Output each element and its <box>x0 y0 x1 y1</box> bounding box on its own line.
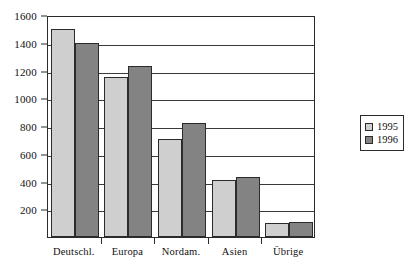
y-tick-label: 1200 <box>14 66 37 78</box>
legend-swatch-icon <box>365 136 373 144</box>
legend-item-1995: 1995 <box>365 120 398 133</box>
legend-swatch-icon <box>365 123 373 131</box>
x-tick-label: Deutschl. <box>53 246 95 257</box>
y-tick-label: 800 <box>20 121 37 133</box>
legend-label: 1995 <box>377 120 398 133</box>
bar-1995-nordam <box>158 139 182 238</box>
x-tick-label: Nordam. <box>162 246 200 257</box>
bar-1995-deutschl <box>51 29 75 237</box>
x-tick-label: Asien <box>222 246 248 257</box>
y-tick-label: 200 <box>20 204 37 216</box>
bar-1995-asien <box>212 180 236 237</box>
x-tick-mark <box>261 238 262 244</box>
chart-page: 1600140012001000800600400200 Deutschl.Eu… <box>0 0 417 266</box>
x-tick-label: Europa <box>112 246 144 257</box>
bar-1995-brige <box>265 223 289 237</box>
bar-1996-nordam <box>182 123 206 237</box>
bar-1996-asien <box>236 177 260 237</box>
bar-1996-europa <box>128 66 152 237</box>
x-tick-mark <box>154 238 155 244</box>
y-tick-label: 1600 <box>14 10 37 22</box>
x-tick-mark <box>208 238 209 244</box>
legend-label: 1996 <box>377 133 398 146</box>
y-tick-label: 1000 <box>14 93 37 105</box>
bar-1996-deutschl <box>75 43 99 237</box>
bar-1995-europa <box>104 77 128 237</box>
bar-1996-brige <box>289 222 313 237</box>
plot-area <box>47 16 315 238</box>
x-tick-mark <box>101 238 102 244</box>
y-tick-label: 400 <box>20 177 37 189</box>
y-axis: 1600140012001000800600400200 <box>0 0 47 266</box>
chart-legend: 19951996 <box>360 115 404 151</box>
y-tick-label: 600 <box>20 149 37 161</box>
x-tick-label: Übrige <box>273 246 303 257</box>
legend-item-1996: 1996 <box>365 133 398 146</box>
y-tick-label: 1400 <box>14 38 37 50</box>
